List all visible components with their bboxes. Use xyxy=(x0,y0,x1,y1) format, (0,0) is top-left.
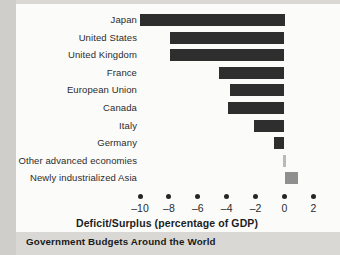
x-axis-tick-label: –4 xyxy=(215,202,239,214)
x-axis-tick-label: –10 xyxy=(128,202,152,214)
x-axis-tick-dot xyxy=(195,194,200,199)
category-label: Other advanced economies xyxy=(18,156,137,166)
x-axis-tick-dot xyxy=(138,194,143,199)
x-axis-tick-label: –8 xyxy=(157,202,181,214)
figure-caption: Government Budgets Around the World xyxy=(26,236,216,247)
x-axis-tick-dot xyxy=(311,194,316,199)
x-axis-tick-dot xyxy=(253,194,258,199)
bar xyxy=(283,155,286,167)
x-axis-tick-dot xyxy=(224,194,229,199)
x-axis-tick-label: 0 xyxy=(273,202,297,214)
category-label: Canada xyxy=(103,103,137,113)
bar xyxy=(254,120,284,132)
x-axis-tick-label: –2 xyxy=(244,202,268,214)
x-axis-title: Deficit/Surplus (percentage of GDP) xyxy=(0,217,340,229)
bar xyxy=(274,137,284,149)
bar xyxy=(228,102,284,114)
x-axis-tick-label: –6 xyxy=(186,202,210,214)
category-label: Japan xyxy=(111,15,137,25)
category-label: United Kingdom xyxy=(68,50,137,60)
category-label: Germany xyxy=(97,138,137,148)
x-axis-tick-dot xyxy=(166,194,171,199)
bar xyxy=(170,32,284,44)
bar xyxy=(170,49,284,61)
x-axis-tick-label: 2 xyxy=(301,202,325,214)
bar xyxy=(140,14,285,26)
bar xyxy=(219,67,284,79)
category-label: Newly industrialized Asia xyxy=(30,173,137,183)
bar xyxy=(230,84,285,96)
chart-page: JapanUnited StatesUnited KingdomFranceEu… xyxy=(0,0,340,255)
category-label: United States xyxy=(79,33,137,43)
category-label: European Union xyxy=(67,85,137,95)
category-label: France xyxy=(107,68,137,78)
bar xyxy=(285,172,298,184)
category-label: Italy xyxy=(119,121,137,131)
x-axis-tick-dot xyxy=(282,194,287,199)
